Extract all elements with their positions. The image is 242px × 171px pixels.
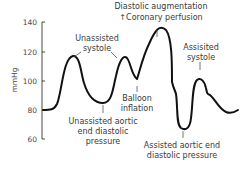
svg-text:Unassisted: Unassisted [75,34,119,43]
svg-text:diastolic pressure: diastolic pressure [147,151,217,160]
svg-text:Assisted aortic end: Assisted aortic end [144,141,220,150]
label-assisted-aedp: Assisted aortic end diastolic pressure [144,141,220,160]
svg-text:Unassisted aortic: Unassisted aortic [68,117,137,126]
svg-text:systole: systole [83,44,111,53]
label-balloon-inflation: Balloon inflation [121,94,154,113]
svg-text:end diastolic: end diastolic [78,127,129,136]
y-tick-100: 100 [23,77,38,86]
y-tick-60: 60 [27,135,37,144]
y-axis: 140 120 100 80 60 mmHg [10,18,45,144]
y-axis-label: mmHg [10,67,19,92]
y-tick-140: 140 [23,18,38,27]
svg-text:Diastolic augmentation: Diastolic augmentation [114,2,207,11]
svg-text:↑Coronary perfusion: ↑Coronary perfusion [119,13,202,22]
iabp-waveform-diagram: 140 120 100 80 60 mmHg Unassisted systol… [0,0,242,171]
svg-text:Balloon: Balloon [122,94,152,103]
label-unassisted-aedp: Unassisted aortic end diastolic pressure [68,117,137,146]
label-diastolic-augmentation: Diastolic augmentation ↑Coronary perfusi… [114,2,207,22]
label-unassisted-systole: Unassisted systole [75,34,119,53]
y-tick-80: 80 [27,106,37,115]
svg-text:pressure: pressure [86,137,121,146]
y-tick-120: 120 [23,48,38,57]
svg-text:inflation: inflation [121,104,154,113]
label-assisted-systole: Assisited systole [183,43,219,62]
svg-text:Assisited: Assisited [183,43,219,52]
svg-text:systole: systole [187,53,215,62]
